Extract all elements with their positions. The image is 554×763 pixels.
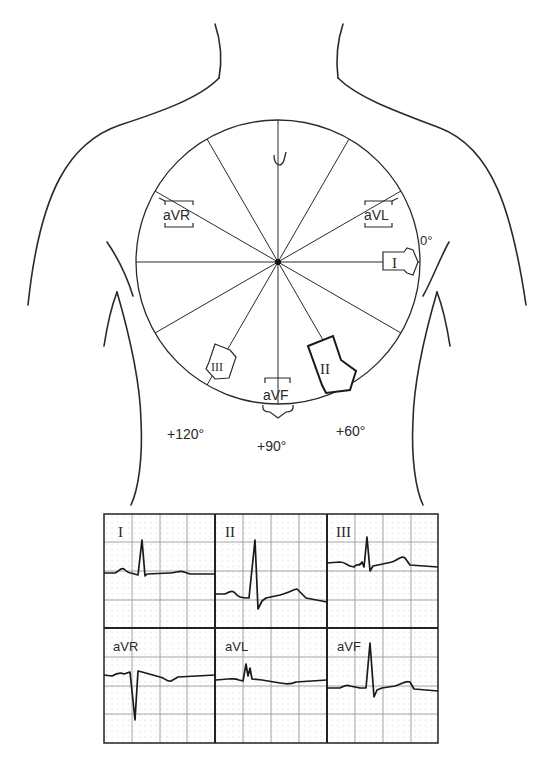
lead-I-electrode: I: [383, 248, 418, 275]
ecg-label-II: II: [225, 524, 235, 540]
ecg-label-aVR: aVR: [113, 639, 138, 654]
hexaxial-diagram: I aVL aVR II III aVF: [136, 120, 432, 454]
ecg-label-aVF: aVF: [337, 639, 361, 654]
lead-aVR-label: aVR: [163, 207, 190, 223]
ecg-label-aVL: aVL: [225, 639, 248, 654]
ecg-label-I: I: [118, 524, 123, 540]
lead-aVL-label: aVL: [364, 207, 389, 223]
lead-aVF-label: aVF: [263, 387, 289, 403]
lead-II-electrode: II: [308, 336, 356, 393]
lead-III-label: III: [211, 360, 223, 374]
angle-label-0: 0°: [420, 233, 432, 248]
lead-I-label: I: [392, 255, 397, 271]
lead-III-electrode: III: [206, 344, 236, 379]
ecg-panel: I II III aVR aVL aVF: [104, 514, 438, 743]
lead-II-label: II: [320, 361, 330, 377]
angle-label-60: +60°: [336, 423, 365, 439]
angle-label-90: +90°: [257, 438, 286, 454]
center-dot: [275, 259, 281, 265]
angle-label-120: +120°: [167, 426, 204, 442]
hook-icon: [274, 152, 286, 165]
figure-canvas: I aVL aVR II III aVF: [0, 0, 554, 763]
ecg-label-III: III: [336, 524, 351, 540]
